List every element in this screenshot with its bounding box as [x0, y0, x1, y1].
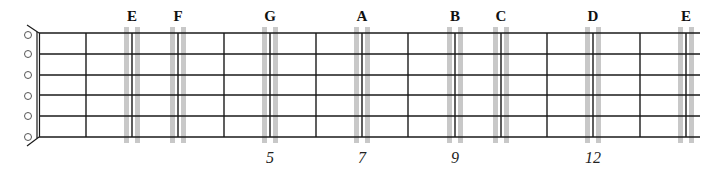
note-label-d: D: [588, 8, 599, 24]
tuning-peg-icon: [25, 32, 32, 39]
fret-number-labels: 57912: [266, 149, 601, 166]
highlight-bar: [596, 27, 601, 143]
highlight-bar: [585, 27, 590, 143]
fret-number-12: 12: [585, 149, 601, 166]
highlight-bar: [365, 27, 370, 143]
nut: [27, 25, 40, 146]
highlight-bar: [124, 27, 129, 143]
tuning-peg-icon: [25, 51, 32, 58]
highlight-bar: [504, 27, 509, 143]
tuning-peg-icon: [25, 113, 32, 120]
headstock-edge-bottom: [27, 137, 39, 146]
tuning-peg-icon: [25, 72, 32, 79]
highlight-bar: [678, 27, 683, 143]
fret-number-7: 7: [358, 149, 367, 166]
note-label-g: G: [264, 8, 276, 24]
highlight-bar: [493, 27, 498, 143]
note-label-e: E: [681, 8, 691, 24]
note-highlight-bands: [124, 27, 694, 143]
highlight-bar: [135, 27, 140, 143]
note-label-a: A: [357, 8, 368, 24]
highlight-bar: [354, 27, 359, 143]
note-label-f: F: [173, 8, 182, 24]
note-labels: EFGABCDE: [127, 8, 691, 24]
highlight-bar: [689, 27, 694, 143]
highlight-bar: [273, 27, 278, 143]
note-label-c: C: [496, 8, 507, 24]
highlight-bar: [458, 27, 463, 143]
highlight-bar: [262, 27, 267, 143]
highlight-bar: [170, 27, 175, 143]
note-label-b: B: [450, 8, 460, 24]
tuning-peg-icon: [25, 134, 32, 141]
tuning-peg-icon: [25, 93, 32, 100]
highlight-bar: [447, 27, 452, 143]
guitar-fretboard-diagram: EFGABCDE 57912: [0, 0, 724, 177]
fret-number-5: 5: [266, 149, 274, 166]
highlight-bar: [181, 27, 186, 143]
fret-number-9: 9: [451, 149, 459, 166]
tuning-pegs: [25, 32, 32, 141]
note-label-e: E: [127, 8, 137, 24]
